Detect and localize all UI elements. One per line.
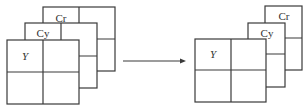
left-plane-stack: Cr Cy Y — [7, 7, 115, 104]
right-cr-label: Cr — [279, 10, 290, 22]
color-plane-subsampling-diagram: Cr Cy Y Cr Cy — [0, 0, 308, 111]
arrow-head-icon — [180, 59, 186, 64]
left-y-plane: Y — [7, 40, 79, 104]
right-y-plane: Y — [195, 39, 266, 102]
right-plane-stack: Cr Cy Y — [195, 6, 302, 102]
transform-arrow — [123, 59, 186, 64]
left-cr-label: Cr — [56, 12, 67, 24]
right-cy-label: Cy — [261, 27, 274, 39]
left-cy-label: Cy — [37, 27, 50, 39]
